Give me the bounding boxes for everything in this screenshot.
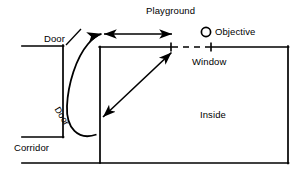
label-door-top: Door [44,33,65,44]
label-inside: Inside [200,109,226,120]
inside-diagonal-arrow [103,53,172,118]
arrow-group [67,34,172,136]
window-opening-group [171,43,211,52]
objective-circle-icon [201,27,210,36]
label-playground: Playground [146,5,195,16]
door-top-leader-line [66,29,81,45]
label-corridor: Corridor [14,142,49,153]
label-objective: Objective [215,26,256,37]
wall-group [22,45,289,164]
door-loop-curved-arrow [67,34,102,136]
diagram-canvas: Playground Objective Window Inside Corri… [0,0,304,179]
label-window: Window [192,56,226,67]
